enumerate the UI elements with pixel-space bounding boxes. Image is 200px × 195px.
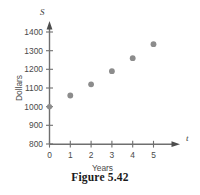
data-point-group [47,41,157,109]
x-tick-label: 2 [89,150,94,160]
x-tick-labels: 0 1 2 3 4 5 [47,150,156,160]
data-point [88,81,94,87]
y-tick-label: 800 [29,139,43,149]
data-point [47,104,52,109]
x-tick-label: 5 [151,150,156,160]
data-point [67,93,73,99]
y-tick-label: 1400 [24,27,43,37]
x-axis-arrow-icon [172,141,181,147]
y-axis-variable-label: S [40,7,45,17]
x-tick-label: 3 [110,150,115,160]
x-tick-label: 4 [130,150,135,160]
data-point [151,41,157,47]
y-tick-label: 1300 [24,46,43,56]
figure-container: 1400 1300 1200 1100 1000 900 800 0 1 2 3… [0,0,200,195]
x-tick-label: 1 [68,150,73,160]
scatter-plot: 1400 1300 1200 1100 1000 900 800 0 1 2 3… [0,0,200,195]
data-point [130,55,136,61]
x-tick-label: 0 [47,150,52,160]
data-point [109,68,115,74]
y-tick-label: 1200 [24,64,43,74]
x-axis [50,141,181,147]
y-axis-arrow-icon [47,21,53,30]
figure-caption: Figure 5.42 [0,171,200,183]
y-tick-labels: 1400 1300 1200 1100 1000 900 800 [24,27,43,149]
x-axis-variable-label: t [186,133,189,143]
y-axis-label: Dollars [14,75,24,101]
y-tick-label: 900 [29,120,43,130]
y-tick-label: 1100 [25,83,43,93]
y-tick-label: 1000 [24,102,43,112]
